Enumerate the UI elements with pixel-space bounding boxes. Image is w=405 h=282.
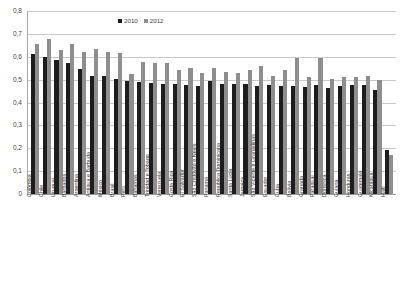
x-label-cell: Venezuela [159,196,171,280]
x-label-cell: Uruguai [53,196,65,280]
bar-group [324,11,336,194]
bar-group [277,11,289,194]
x-label-cell: Barbados [64,196,76,280]
x-label-cell: Guiana [336,196,348,280]
plot-area [27,11,396,194]
x-axis-label: Guiana [334,180,339,197]
x-axis-label: Barbados [62,174,67,197]
bar-group [112,11,124,194]
y-tick-label: 0,1 [13,168,22,175]
bar-2012 [35,44,39,194]
bar-group [336,11,348,194]
y-tick-label: 0,5 [13,76,22,83]
bar-2012 [330,79,334,194]
x-label-cell: Nicarágua [372,196,384,280]
x-axis-label: Peru [121,186,126,197]
y-tick-label: 0,4 [13,99,22,106]
x-label-cell: Peru [124,196,136,280]
bar-2012 [259,66,263,194]
x-axis-label: Panamá [204,177,209,197]
y-axis-tick-labels: 00,10,20,30,40,50,60,70,8 [0,11,25,194]
x-label-cell: Panamá [206,196,218,280]
x-label-cell: Colômbia [29,196,41,280]
x-label-cell: Chile [41,196,53,280]
x-axis-label: Honduras [345,174,350,197]
x-label-cell: Costa Rica [171,196,183,280]
bar-2012 [200,73,204,194]
x-label-cell: São Cristóvão e Nevis [194,196,206,280]
x-axis-label: Colômbia [27,174,32,197]
x-axis-label: Jamaica [239,177,244,197]
x-label-cell: Honduras [348,196,360,280]
x-axis-label: Nicarágua [369,172,374,197]
bar-2012 [118,53,122,194]
x-label-cell: Bahamas [135,196,147,280]
bar-group [383,11,395,194]
bar-group [64,11,76,194]
bar-group [100,11,112,194]
bar-2012 [389,155,393,194]
bar-2012 [70,44,74,194]
x-axis-label: Granada [298,176,303,197]
bar-group [301,11,313,194]
x-axis-label: Venezuela [156,172,161,197]
bars-container [27,11,396,194]
y-tick-label: 0,6 [13,54,22,61]
x-axis-label: Chile [38,185,43,197]
x-axis-label: El Salvador [180,169,185,197]
bar-2012 [106,52,110,195]
y-tick-label: 0 [18,191,22,198]
x-label-cell: Haiti [383,196,395,280]
x-axis-label: Bolívia [286,181,291,197]
bar-group [265,11,277,194]
bar-group [124,11,136,194]
bar-2012 [295,58,299,194]
bar-group [53,11,65,194]
x-axis-label: República Dominicana [216,143,221,197]
y-tick-label: 0,3 [13,122,22,129]
x-axis-label: São Vicente e Granadinas [251,134,256,197]
bar-group [171,11,183,194]
x-axis-label: São Cristóvão e Nevis [192,144,197,197]
bar-chart: 00,10,20,30,40,50,60,70,8 2010 2012 Colô… [0,0,405,282]
x-label-cell: México [100,196,112,280]
x-axis-label: Equador [263,177,268,197]
bar-2012 [236,73,240,194]
x-axis-label: Uruguai [50,178,55,197]
x-axis-label: Brasil [109,184,114,197]
bar-2012 [271,76,275,194]
x-label-cell: Paraguai [313,196,325,280]
y-tick-label: 0,7 [13,31,22,38]
axis-baseline [27,194,396,195]
bar-group [159,11,171,194]
x-axis-label: Bahamas [133,174,138,197]
bar-2012 [94,49,98,194]
x-label-cell: Cuba [277,196,289,280]
y-tick-label: 0,8 [13,8,22,15]
x-label-cell: Granada [301,196,313,280]
bar-2012 [59,50,63,194]
x-label-cell: Equador [265,196,277,280]
bar-2012 [47,39,51,194]
x-label-cell: Guatemala [360,196,372,280]
x-axis-label: Cuba [275,184,280,197]
x-label-cell: Jamaica [242,196,254,280]
x-axis-label: Dominica [322,175,327,197]
x-axis-label: Guatemala [357,171,362,197]
y-tick-label: 0,2 [13,145,22,152]
x-label-cell: Brasil [112,196,124,280]
x-label-cell: Bolívia [289,196,301,280]
x-axis-label: Santa Lúcia [227,169,232,197]
bar-group [41,11,53,194]
bar-group [230,11,242,194]
x-axis-label: Antígua e Barbuda [86,152,91,197]
x-axis-label: Paraguai [310,175,315,197]
x-label-cell: Trinidad e Tobago [147,196,159,280]
x-axis-label: Haiti [381,186,386,197]
x-label-cell: São Vicente e Granadinas [253,196,265,280]
bar-2012 [377,80,381,194]
x-axis-label: Trinidad e Tobago [145,154,150,197]
bar-group [360,11,372,194]
bar-group [313,11,325,194]
x-label-cell: Argentina [76,196,88,280]
